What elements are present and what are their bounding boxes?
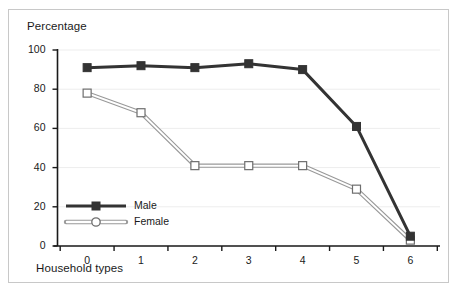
data-point-male xyxy=(406,232,414,240)
data-point-male xyxy=(83,64,91,72)
y-tick-label: 20 xyxy=(20,200,46,212)
legend-label-male: Male xyxy=(134,199,157,211)
data-point-male xyxy=(352,122,360,130)
data-point-female xyxy=(352,185,360,193)
data-point-male xyxy=(245,60,253,68)
chart-plot-area xyxy=(0,0,459,292)
data-point-male xyxy=(191,64,199,72)
y-tick-label: 0 xyxy=(20,239,46,251)
x-tick-label: 1 xyxy=(131,254,151,266)
data-series-group xyxy=(83,60,414,244)
legend-marker-female xyxy=(92,218,100,226)
x-tick-label: 0 xyxy=(77,254,97,266)
legend-marks-group xyxy=(66,202,126,226)
x-tick-label: 6 xyxy=(400,254,420,266)
data-point-female xyxy=(191,162,199,170)
y-tick-label: 80 xyxy=(20,82,46,94)
chart-figure: Percentage Household types 020406080100 … xyxy=(0,0,459,292)
data-point-female xyxy=(299,162,307,170)
data-point-male xyxy=(299,66,307,74)
data-point-female xyxy=(83,89,91,97)
legend-marker-male xyxy=(92,202,100,210)
x-tick-label: 4 xyxy=(293,254,313,266)
x-tick-label: 5 xyxy=(346,254,366,266)
y-tick-label: 60 xyxy=(20,121,46,133)
data-point-male xyxy=(137,62,145,70)
legend-label-female: Female xyxy=(134,215,169,227)
axes-group xyxy=(54,49,441,246)
y-axis-title: Percentage xyxy=(27,20,87,32)
x-tick-label: 3 xyxy=(239,254,259,266)
y-tick-label: 40 xyxy=(20,161,46,173)
x-tick-label: 2 xyxy=(185,254,205,266)
data-point-female xyxy=(137,109,145,117)
data-point-female xyxy=(245,162,253,170)
y-tick-label: 100 xyxy=(20,43,46,55)
